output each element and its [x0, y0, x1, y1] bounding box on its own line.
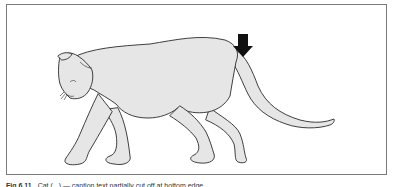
cat-front-leg-near [65, 94, 112, 165]
figure-caption: Fig 6.11 Cat (...) — caption text partia… [6, 181, 386, 187]
figure-number: Fig 6.11 [6, 182, 32, 187]
cat-body [58, 37, 334, 164]
cat-tail [232, 50, 334, 128]
figure-caption-text: Cat (...) — caption text partially cut o… [38, 182, 204, 187]
cat-illustration [0, 0, 397, 187]
